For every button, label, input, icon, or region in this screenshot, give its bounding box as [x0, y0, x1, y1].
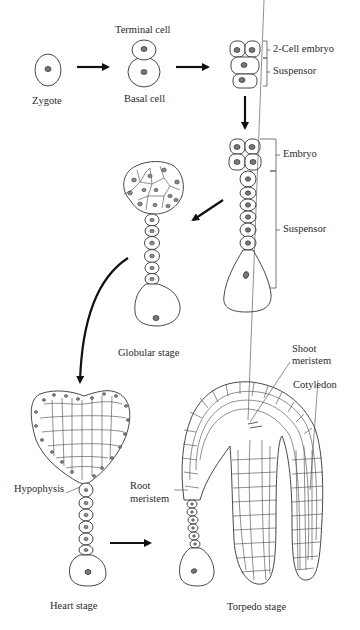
- label-cotyledon: Cotyledon: [293, 379, 337, 391]
- two-cell-stage: [128, 40, 160, 87]
- label-embryo: Embryo: [283, 148, 317, 160]
- arrow-globular-to-heart: [80, 258, 128, 382]
- globular-stage: [124, 162, 184, 327]
- label-root: Root: [130, 480, 150, 492]
- four-cell-stage: [230, 41, 270, 88]
- label-terminal-cell: Terminal cell: [115, 24, 171, 36]
- embryogenesis-diagram: Zygote Terminal cell Basal cell 2-Cell e…: [0, 0, 360, 630]
- label-root-meristem: meristem: [130, 493, 169, 505]
- label-suspensor-1: Suspensor: [273, 65, 316, 77]
- octant-stage: [224, 139, 280, 312]
- label-torpedo-stage: Torpedo stage: [227, 601, 286, 613]
- label-hypophysis: Hypophysis: [14, 483, 64, 495]
- label-basal-cell: Basal cell: [124, 93, 165, 105]
- zygote-cell: [35, 54, 61, 86]
- label-2-cell-embryo: 2-Cell embryo: [273, 43, 334, 55]
- label-heart-stage: Heart stage: [50, 600, 98, 612]
- label-suspensor-2: Suspensor: [283, 223, 326, 235]
- label-globular-stage: Globular stage: [118, 347, 180, 359]
- label-shoot-meristem: meristem: [292, 355, 331, 367]
- label-zygote: Zygote: [32, 95, 62, 107]
- arrow-octant-to-globular: [193, 200, 223, 220]
- label-shoot: Shoot: [292, 343, 317, 355]
